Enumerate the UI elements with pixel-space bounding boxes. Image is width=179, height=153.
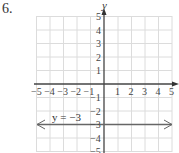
y-tick: 4: [96, 25, 101, 36]
x-tick: 2: [129, 86, 134, 97]
y-tick: 2: [96, 52, 101, 63]
equation-label: y = −3: [52, 111, 81, 123]
x-tick: 1: [115, 86, 120, 97]
y-axis: y: [101, 0, 107, 153]
y-tick: −1: [90, 92, 101, 103]
y-tick: −5: [90, 146, 101, 153]
y-tick-labels: 5 4 3 2 1 −1 −2 −3 −4 −5: [90, 11, 101, 153]
x-ticks-negative: −5 −4 −3 −2 −1: [31, 86, 94, 97]
y-tick: −2: [90, 106, 101, 117]
y-tick: 1: [96, 65, 101, 76]
x-tick: 5: [169, 86, 174, 97]
y-tick: 5: [96, 11, 101, 22]
x-tick: 4: [156, 86, 161, 97]
coordinate-plane: y y = −3 −5 −4 −3 −2 −1 1 2 3 4 5 5 4 3 …: [0, 0, 179, 153]
y-axis-label: y: [101, 0, 107, 11]
y-tick: −3: [90, 119, 101, 130]
y-tick: 3: [96, 38, 101, 49]
y-tick: −4: [90, 133, 101, 144]
x-tick-labels: −5 −4 −3 −2 −1 1 2 3 4 5: [31, 86, 174, 97]
x-tick: 3: [142, 86, 147, 97]
